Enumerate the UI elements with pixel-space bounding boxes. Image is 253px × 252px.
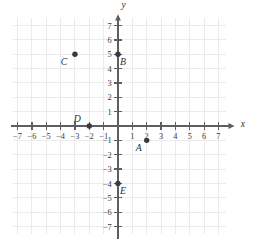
x-axis-arrow-icon bbox=[228, 123, 234, 129]
x-axis-tick-label: 6 bbox=[202, 132, 206, 141]
x-axis-tick-label: 3 bbox=[159, 132, 163, 141]
y-axis-tick-label: −7 bbox=[103, 223, 112, 232]
y-axis-arrow-icon bbox=[115, 14, 121, 20]
y-axis-tick-label: −3 bbox=[103, 165, 112, 174]
y-axis-tick-label: −5 bbox=[103, 194, 112, 203]
y-axis-tick-label: 3 bbox=[108, 79, 112, 88]
x-axis-tick-label: 4 bbox=[173, 132, 178, 141]
point-label-d: D bbox=[73, 113, 81, 124]
y-axis-label: y bbox=[120, 0, 126, 10]
y-axis-tick-label: 6 bbox=[108, 36, 112, 45]
x-axis-tick-label: 1 bbox=[130, 132, 134, 141]
y-axis-tick-label: −1 bbox=[103, 136, 112, 145]
axis-name-layer: xy bbox=[120, 0, 245, 129]
y-axis-tick-label: −2 bbox=[103, 151, 112, 160]
data-points-layer: ABCDE bbox=[61, 52, 150, 197]
y-axis-tick-label: 1 bbox=[108, 108, 112, 117]
coordinate-plane-figure: −7−6−5−4−3−2−11234567−7−6−5−4−3−2−112345… bbox=[0, 0, 253, 252]
x-axis-tick-label: −3 bbox=[70, 132, 79, 141]
y-axis-tick-label: −4 bbox=[103, 180, 113, 189]
x-axis-tick-label: −7 bbox=[13, 132, 22, 141]
coordinate-plane-svg: −7−6−5−4−3−2−11234567−7−6−5−4−3−2−112345… bbox=[0, 0, 253, 252]
point-marker bbox=[87, 123, 92, 128]
y-axis-tick-label: 5 bbox=[108, 50, 112, 59]
x-axis-tick-label: −4 bbox=[56, 132, 66, 141]
point-label-a: A bbox=[135, 142, 143, 153]
point-marker bbox=[72, 52, 77, 57]
x-axis-tick-label: −2 bbox=[85, 132, 94, 141]
point-marker bbox=[144, 138, 149, 143]
x-axis-tick-label: −5 bbox=[42, 132, 51, 141]
y-axis-tick-label: −6 bbox=[103, 208, 112, 217]
point-label-c: C bbox=[61, 56, 68, 67]
x-axis-tick-label: 7 bbox=[216, 132, 220, 141]
point-label-b: B bbox=[120, 56, 126, 67]
x-axis-label: x bbox=[240, 119, 246, 129]
point-label-e: E bbox=[119, 185, 126, 196]
x-axis-tick-label: 5 bbox=[188, 132, 192, 141]
y-axis-tick-label: 4 bbox=[108, 65, 113, 74]
axes-layer bbox=[11, 14, 234, 238]
y-axis-tick-label: 7 bbox=[108, 22, 112, 31]
x-axis-tick-label: −6 bbox=[27, 132, 36, 141]
y-axis-tick-label: 2 bbox=[108, 93, 112, 102]
